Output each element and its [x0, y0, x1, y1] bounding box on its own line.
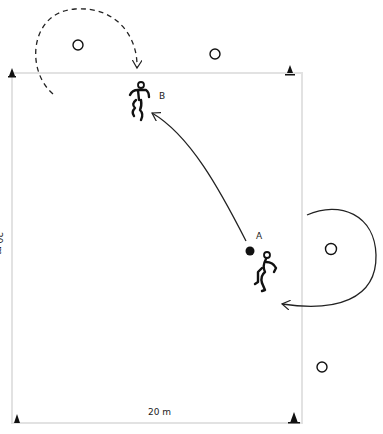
run-path-dashed [36, 9, 137, 94]
width-dimension-label: 20 m [148, 407, 171, 417]
run-path-solid [282, 209, 376, 306]
player-a-label: A [256, 231, 262, 241]
player-b-icon [130, 82, 149, 120]
ball-icon [246, 247, 255, 256]
player-a-icon [255, 252, 276, 291]
marker-circle-icon [73, 40, 83, 50]
cone-icon [14, 414, 20, 423]
drill-diagram [0, 0, 383, 434]
marker-circle-icon [326, 244, 337, 255]
height-dimension-label: 20 m [0, 232, 4, 255]
marker-circle-icon [317, 362, 327, 372]
player-b-label: B [159, 91, 165, 101]
cone-icon [288, 412, 300, 424]
pass-arrow [152, 113, 246, 241]
field-boundary [12, 73, 302, 423]
marker-circle-icon [210, 49, 220, 59]
